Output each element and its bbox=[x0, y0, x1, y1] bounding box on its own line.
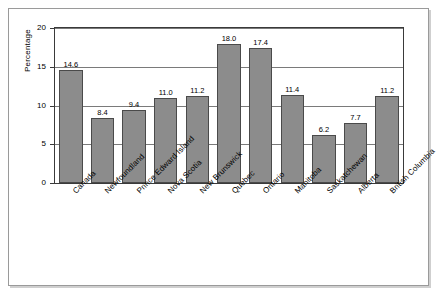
y-tick-label: 15 bbox=[28, 63, 46, 71]
bar-slot: 17.4 bbox=[245, 28, 277, 183]
y-tick-label: 20 bbox=[28, 24, 46, 32]
bar-value-label: 11.2 bbox=[361, 87, 413, 95]
bar-slot: 14.6 bbox=[55, 28, 87, 183]
y-tick-label: 10 bbox=[28, 102, 46, 110]
bar-chart: Percentage 05101520 14.68.49.411.011.218… bbox=[0, 0, 447, 302]
bar-slot: 6.2 bbox=[308, 28, 340, 183]
bar-slot: 11.2 bbox=[371, 28, 403, 183]
bar[interactable] bbox=[249, 48, 272, 183]
chart-page: Percentage 05101520 14.68.49.411.011.218… bbox=[0, 0, 447, 302]
bar[interactable] bbox=[375, 96, 398, 183]
bar[interactable] bbox=[281, 95, 304, 183]
bar-slot: 11.4 bbox=[276, 28, 308, 183]
y-tick-label: 0 bbox=[28, 179, 46, 187]
bar[interactable] bbox=[59, 70, 82, 183]
y-tick-label: 5 bbox=[28, 140, 46, 148]
